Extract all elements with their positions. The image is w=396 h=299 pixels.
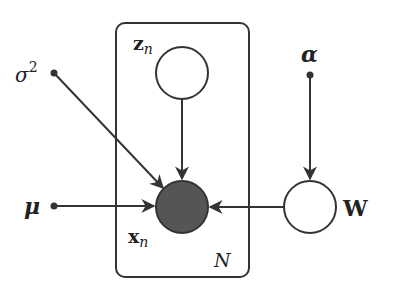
label-plate-n: N xyxy=(213,249,232,271)
mu-dot xyxy=(51,203,58,210)
graphical-model-diagram: zn xn W N σ2 μ α xyxy=(0,0,396,299)
alpha-dot xyxy=(307,72,314,79)
label-mu: μ xyxy=(24,193,40,219)
label-alpha: α xyxy=(301,41,318,67)
label-x: xn xyxy=(128,225,148,250)
label-sigma2: σ2 xyxy=(15,59,38,87)
edge-sigma2-to-x xyxy=(54,73,163,188)
node-x-observed xyxy=(156,181,208,233)
label-w: W xyxy=(342,195,368,221)
label-z: zn xyxy=(133,32,153,57)
node-w xyxy=(284,181,336,233)
node-z xyxy=(156,47,208,99)
sigma2-dot xyxy=(51,70,58,77)
